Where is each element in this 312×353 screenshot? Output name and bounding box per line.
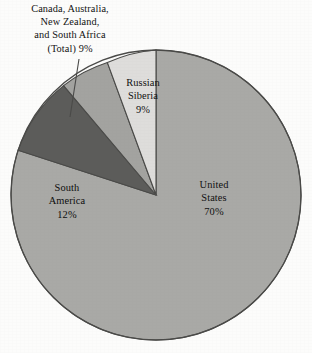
slice-label-russian-siberia-line-2: Siberia [106,89,180,102]
slice-label-united-states-line-2: States [176,191,252,204]
callout-line-4: (Total) 9% [2,42,138,55]
slice-label-russian-siberia: Russian Siberia 9% [106,76,180,116]
slice-label-russian-siberia-value: 9% [106,103,180,116]
callout-canada-australia-new-zealand-south-africa: Canada, Australia, New Zealand, and Sout… [2,2,138,55]
slice-label-united-states-line-1: United [176,178,252,191]
slice-label-south-america-line-2: America [28,194,106,207]
callout-line-2: New Zealand, [2,15,138,28]
callout-line-3: and South Africa [2,28,138,41]
slice-label-russian-siberia-line-1: Russian [106,76,180,89]
slice-label-south-america: South America 12% [28,181,106,221]
slice-label-united-states: United States 70% [176,178,252,218]
callout-line-1: Canada, Australia, [2,2,138,15]
slice-label-south-america-value: 12% [28,208,106,221]
slice-label-south-america-line-1: South [28,181,106,194]
slice-label-united-states-value: 70% [176,205,252,218]
pie-chart-figure: Canada, Australia, New Zealand, and Sout… [0,0,312,353]
